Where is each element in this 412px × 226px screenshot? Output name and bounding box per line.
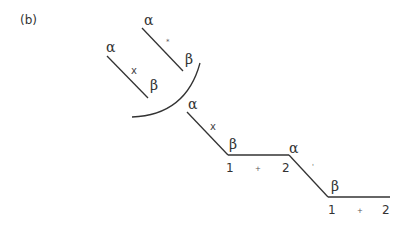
diagram-canvas: (b) α x β α * β α x β 1 + 2 α ' β 1 + 2 [0, 0, 412, 226]
chain-beta-2: β [331, 178, 339, 194]
plateau-1-right: 2 [282, 161, 290, 175]
upper-fragment-mark: * [166, 38, 170, 46]
chain-diagonal-1 [187, 112, 228, 155]
plateau-2-op: + [357, 207, 363, 215]
upper-fragment-alpha: α [144, 12, 154, 28]
left-fragment-line [107, 56, 148, 98]
plateau-2-left: 1 [328, 203, 336, 217]
upper-fragment-line [142, 28, 183, 71]
chain-mark-2: ' [312, 163, 314, 171]
left-fragment-alpha: α [106, 39, 116, 55]
chain-alpha-1: α [188, 96, 198, 112]
chain-x-1: x [210, 121, 216, 132]
panel-label: (b) [20, 13, 37, 27]
plateau-1-op: + [255, 165, 261, 173]
plateau-2-right: 2 [382, 203, 390, 217]
chain-diagonal-2 [289, 155, 328, 197]
left-fragment-beta: β [150, 77, 158, 93]
chain-beta-1: β [229, 136, 237, 152]
upper-fragment-beta: β [185, 51, 193, 67]
plateau-1-left: 1 [226, 161, 234, 175]
left-fragment-x: x [131, 65, 137, 76]
chain-alpha-2: α [289, 140, 299, 156]
